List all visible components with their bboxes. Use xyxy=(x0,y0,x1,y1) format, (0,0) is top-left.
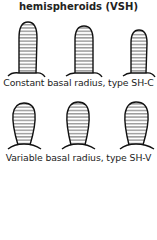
caption-sh-v: Variable basal radius, type SH-V xyxy=(0,152,157,163)
caption-sh-c: Constant basal radius, type SH-C xyxy=(0,77,157,88)
